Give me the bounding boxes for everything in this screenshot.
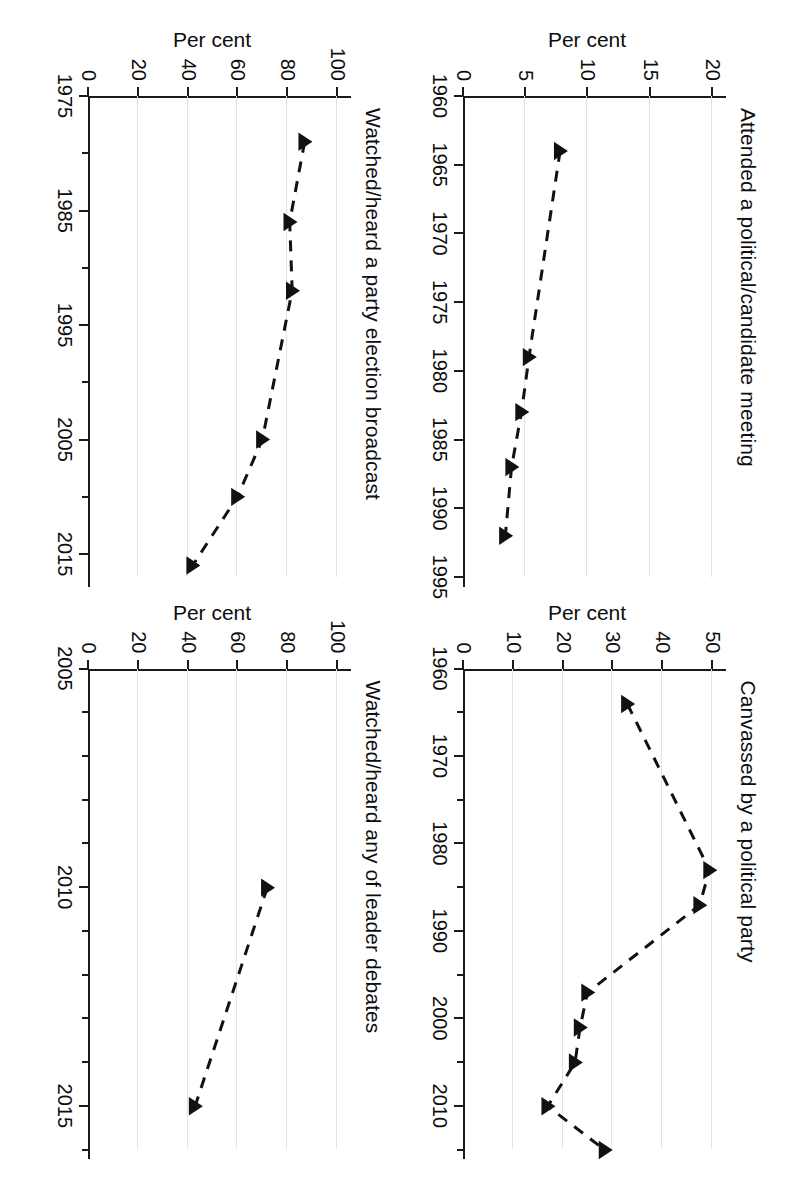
x-axis-tick-label: 1985 <box>428 417 451 462</box>
x-axis-tick-label: 1980 <box>428 821 451 866</box>
series-line <box>548 703 710 1149</box>
data-point-marker <box>621 694 635 712</box>
y-axis-tick-label: 20 <box>126 631 149 653</box>
x-axis-tick-label: 1990 <box>428 909 451 954</box>
x-axis-tick-label: 1970 <box>428 734 451 779</box>
plot-area: 01020304050196019701980199020002010 <box>463 669 712 1150</box>
y-axis-tick: 40 <box>187 87 189 96</box>
y-axis-label-holder: Per cent <box>88 36 337 60</box>
x-axis-tick: 1990 <box>454 930 463 932</box>
data-point-marker <box>231 488 245 506</box>
data-series <box>88 669 337 1150</box>
panel-attended-meeting: Attended a political/candidate meeting P… <box>393 22 768 595</box>
x-axis-tick: 2000 <box>454 1017 463 1019</box>
y-axis-tick: 15 <box>649 87 651 96</box>
x-axis-tick: 1995 <box>454 576 463 578</box>
y-axis-tick: 20 <box>137 660 139 669</box>
series-line <box>505 151 560 536</box>
y-axis-tick: 10 <box>587 87 589 96</box>
y-axis-tick: 60 <box>236 660 238 669</box>
y-axis-label-holder: Per cent <box>463 609 712 633</box>
x-axis-tick: 2005 <box>79 439 88 441</box>
x-axis-tick-label: 2005 <box>53 417 76 462</box>
figure-panel-grid: Attended a political/candidate meeting P… <box>0 0 794 1197</box>
y-axis-tick-label: 5 <box>514 70 537 81</box>
data-point-marker <box>256 430 270 448</box>
y-axis-tick: 40 <box>661 660 663 669</box>
x-axis-tick: 1985 <box>79 210 88 212</box>
x-axis-tick-label: 2015 <box>53 1084 76 1129</box>
x-axis-tick-label: 2005 <box>53 646 76 691</box>
data-point-marker <box>693 895 707 913</box>
x-axis-tick: 1980 <box>454 842 463 844</box>
figure-rotation-wrapper: Attended a political/candidate meeting P… <box>0 0 794 1197</box>
x-axis-tick-label: 2010 <box>53 865 76 910</box>
x-axis-tick: 1980 <box>454 370 463 372</box>
y-axis-tick: 30 <box>611 660 613 669</box>
y-axis-tick-label: 80 <box>276 631 299 653</box>
y-axis-tick-label: 100 <box>326 48 349 81</box>
data-point-marker <box>703 860 717 878</box>
y-axis-tick-label: 20 <box>701 59 724 81</box>
x-axis-tick-label: 2015 <box>53 532 76 577</box>
x-axis-tick-label: 1990 <box>428 486 451 531</box>
x-axis-tick-label: 1970 <box>428 211 451 256</box>
x-axis-tick-label: 1995 <box>428 555 451 600</box>
plot-area: 020406080100200520102015 <box>88 669 337 1150</box>
y-axis-tick-label: 10 <box>576 59 599 81</box>
data-point-marker <box>515 403 529 421</box>
y-axis-tick-label: 15 <box>638 59 661 81</box>
y-axis-tick-label: 10 <box>501 631 524 653</box>
x-axis-tick: 1995 <box>79 324 88 326</box>
panel-title: Watched/heard a party election broadcast <box>361 108 385 500</box>
series-line <box>193 142 305 566</box>
y-axis-tick: 80 <box>286 87 288 96</box>
data-series <box>463 669 712 1150</box>
x-axis-tick: 2015 <box>79 1105 88 1107</box>
y-axis-tick-label: 60 <box>226 631 249 653</box>
y-axis-tick: 60 <box>236 87 238 96</box>
panel-title: Canvassed by a political party <box>736 681 760 963</box>
x-axis-tick: 1975 <box>454 301 463 303</box>
y-axis-tick: 40 <box>187 660 189 669</box>
y-axis-tick-label: 80 <box>276 59 299 81</box>
y-axis-label: Per cent <box>173 28 251 52</box>
y-axis-tick-label: 60 <box>226 59 249 81</box>
y-axis-tick-label: 0 <box>77 70 100 81</box>
x-axis-tick: 1970 <box>454 755 463 757</box>
x-axis-tick: 1960 <box>454 95 463 97</box>
y-axis-tick: 100 <box>336 660 338 669</box>
y-axis-label-holder: Per cent <box>88 609 337 633</box>
plot-area: 02040608010019751985199520052015 <box>88 96 337 577</box>
x-axis-tick-label: 2010 <box>428 1084 451 1129</box>
y-axis-tick-label: 0 <box>452 642 475 653</box>
y-axis-tick-label: 0 <box>77 642 100 653</box>
panel-party-election-broadcast: Watched/heard a party election broadcast… <box>18 22 393 595</box>
x-axis-tick: 1985 <box>454 439 463 441</box>
y-axis-label: Per cent <box>548 28 626 52</box>
x-axis-tick: 1990 <box>454 507 463 509</box>
x-axis-tick-label: 1980 <box>428 349 451 394</box>
data-point-marker <box>298 133 312 151</box>
data-point-marker <box>574 1018 588 1036</box>
x-axis-tick-label: 2000 <box>428 996 451 1041</box>
x-axis-tick-label: 1995 <box>53 303 76 348</box>
y-axis-tick-label: 20 <box>126 59 149 81</box>
x-axis-tick-label: 1960 <box>428 646 451 691</box>
y-axis-tick-label: 0 <box>452 70 475 81</box>
y-axis-tick: 5 <box>524 87 526 96</box>
y-axis-tick: 100 <box>336 87 338 96</box>
y-axis-tick: 20 <box>562 660 564 669</box>
y-axis-tick-label: 100 <box>326 620 349 653</box>
data-point-marker <box>599 1140 613 1158</box>
data-point-marker <box>541 1097 555 1115</box>
x-axis-tick: 1965 <box>454 164 463 166</box>
x-axis-tick: 2010 <box>79 886 88 888</box>
y-axis-tick-label: 30 <box>601 631 624 653</box>
x-axis-tick: 1970 <box>454 232 463 234</box>
x-axis-tick: 2005 <box>79 668 88 670</box>
y-axis-tick-label: 40 <box>651 631 674 653</box>
x-axis-tick-label: 1960 <box>428 74 451 119</box>
data-series <box>88 96 337 577</box>
y-axis-label-holder: Per cent <box>463 36 712 60</box>
